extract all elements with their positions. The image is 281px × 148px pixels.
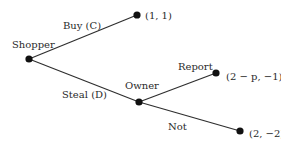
payoff-report: (2 − p, −1) xyxy=(226,71,281,82)
payoff-not: (2, −2) xyxy=(249,128,281,139)
edge-label-buy: Buy (C) xyxy=(63,20,101,31)
player-label-shopper: Shopper xyxy=(12,39,55,50)
edge-label-steal: Steal (D) xyxy=(62,89,107,100)
node-shopper xyxy=(25,55,32,62)
payoff-buy: (1, 1) xyxy=(145,10,172,21)
player-label-owner: Owner xyxy=(125,80,159,91)
node-owner xyxy=(135,98,142,105)
edge-not xyxy=(139,102,240,131)
edge-label-report: Report xyxy=(178,61,213,72)
game-tree: Shopper Buy (C) Steal (D) Owner Report N… xyxy=(0,0,281,148)
node-terminal-report xyxy=(212,69,219,76)
node-terminal-buy xyxy=(133,11,140,18)
edge-label-not: Not xyxy=(168,121,187,132)
node-terminal-not xyxy=(236,127,243,134)
